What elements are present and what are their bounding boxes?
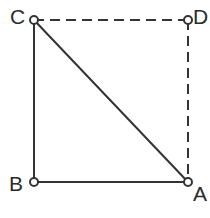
vertex-label-b: B xyxy=(9,173,23,194)
geometry-canvas xyxy=(0,0,210,218)
vertex-marker-b xyxy=(30,178,38,186)
edge-group xyxy=(34,20,188,182)
edge-c-a-hypotenuse xyxy=(34,20,188,182)
vertex-marker-c xyxy=(30,16,38,24)
vertex-label-a: A xyxy=(193,183,207,204)
vertex-label-c: C xyxy=(10,6,25,27)
vertex-marker-a xyxy=(184,178,192,186)
geometry-figure: C D B A xyxy=(0,0,210,218)
vertex-label-d: D xyxy=(193,6,208,27)
vertex-marker-d xyxy=(184,16,192,24)
